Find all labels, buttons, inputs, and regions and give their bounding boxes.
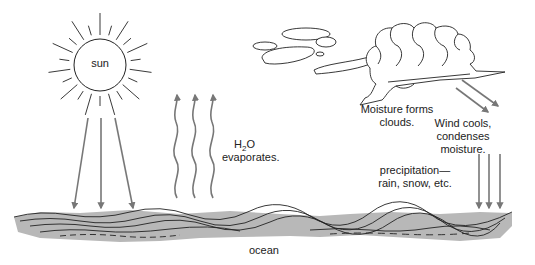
- sun-ray: [127, 43, 147, 52]
- moisture-forms-label: Moisture forms: [338, 103, 456, 116]
- wind-cools-label: Wind cools,: [423, 117, 503, 130]
- precipitation-label: precipitation—: [365, 164, 465, 177]
- sun-ray: [128, 78, 137, 82]
- sunlight-arrow-1: [74, 118, 88, 208]
- evaporation-arrow-3: [210, 95, 214, 198]
- evaporation-arrows: [174, 95, 214, 198]
- precipitation-arrows: [479, 154, 500, 208]
- rain-snow-label: rain, snow, etc.: [365, 177, 465, 190]
- condenses-label: condenses: [423, 130, 503, 143]
- sun-ray: [49, 69, 71, 72]
- sun-ray: [123, 38, 131, 45]
- sun-ray: [63, 78, 72, 82]
- evaporation-arrow-1: [174, 95, 178, 198]
- sun-ray: [61, 85, 78, 100]
- small-cloud-1: [253, 42, 277, 50]
- small-cloud-5: [316, 52, 324, 56]
- sun-ray: [59, 59, 69, 60]
- sunlight-arrow-3: [115, 118, 133, 208]
- sun-ray: [53, 43, 73, 52]
- clouds: [253, 23, 505, 105]
- wind-arrows: [456, 80, 498, 112]
- sun-ray: [78, 91, 83, 99]
- thundercloud: [360, 23, 505, 105]
- moisture-label: moisture.: [423, 143, 503, 156]
- small-cloud-3: [316, 37, 336, 47]
- sun-ray: [123, 85, 140, 100]
- sunlight-arrows: [74, 118, 133, 208]
- ocean: [14, 202, 512, 242]
- sun-ray: [116, 21, 128, 40]
- sun-ray: [88, 26, 91, 36]
- sun-ray: [109, 26, 112, 36]
- low-cloud-layer: [314, 57, 375, 74]
- sun-ray: [130, 69, 152, 72]
- sun-label: sun: [80, 57, 120, 70]
- h2o-suffix: O: [246, 138, 255, 150]
- sun-ray: [85, 94, 91, 115]
- ocean-label: ocean: [244, 244, 284, 257]
- sun-ray: [109, 94, 115, 115]
- evaporates-label: evaporates.: [222, 151, 279, 164]
- sun-ray: [117, 91, 122, 99]
- wind-arrow-1: [462, 80, 498, 106]
- sun-ray: [131, 59, 141, 60]
- evaporation-arrow-2: [192, 95, 196, 198]
- h2o-prefix: H: [234, 138, 242, 150]
- sun-ray: [69, 38, 77, 45]
- wind-arrow-2: [456, 88, 488, 112]
- sun-ray: [72, 21, 84, 40]
